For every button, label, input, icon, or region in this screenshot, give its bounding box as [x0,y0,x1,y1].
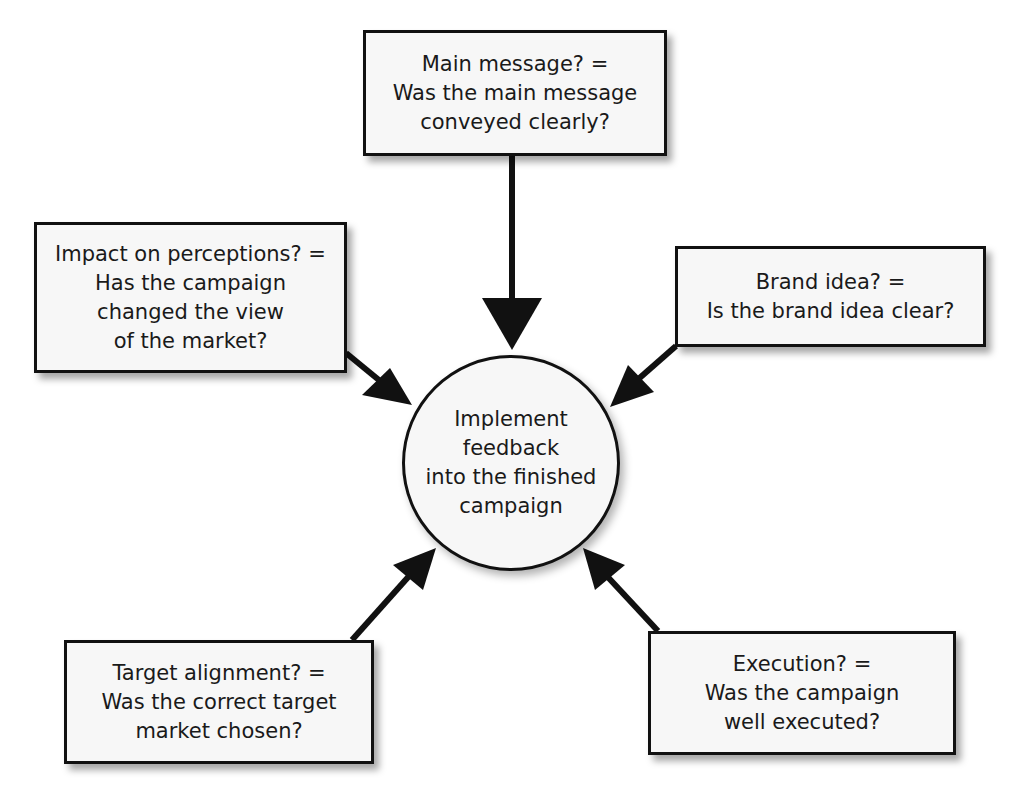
center-node: Implement feedback into the finished cam… [402,355,620,571]
node-impact-line: of the market? [114,327,268,356]
node-main-message: Main message? = Was the main message con… [363,30,667,156]
center-node-line: Implement [454,405,568,434]
arrow-main-message [482,155,542,350]
node-execution-line: Execution? = [733,650,871,679]
node-target-line: Target alignment? = [112,659,325,688]
node-target-line: market chosen? [135,717,302,746]
arrow-execution [583,548,658,631]
node-execution: Execution? = Was the campaign well execu… [648,631,956,755]
center-node-line: campaign [459,492,563,521]
node-impact-line: Has the campaign [95,269,286,298]
node-target-alignment: Target alignment? = Was the correct targ… [64,640,374,764]
node-impact-line: changed the view [97,298,284,327]
center-node-line: feedback [463,434,559,463]
arrow-target [352,548,436,640]
node-brand-idea: Brand idea? = Is the brand idea clear? [675,246,986,347]
node-execution-line: Was the campaign [705,679,900,708]
node-main-message-line: conveyed clearly? [420,108,610,137]
node-target-line: Was the correct target [101,688,336,717]
node-execution-line: well executed? [724,708,880,737]
center-node-line: into the finished [426,463,597,492]
node-main-message-line: Was the main message [393,79,638,108]
arrow-brand-idea [610,346,676,407]
node-impact-line: Impact on perceptions? = [55,240,326,269]
node-brand-idea-line: Brand idea? = [756,268,906,297]
node-main-message-line: Main message? = [422,50,609,79]
node-impact-on-perceptions: Impact on perceptions? = Has the campaig… [34,222,347,373]
arrow-impact [346,353,412,405]
node-brand-idea-line: Is the brand idea clear? [707,297,955,326]
